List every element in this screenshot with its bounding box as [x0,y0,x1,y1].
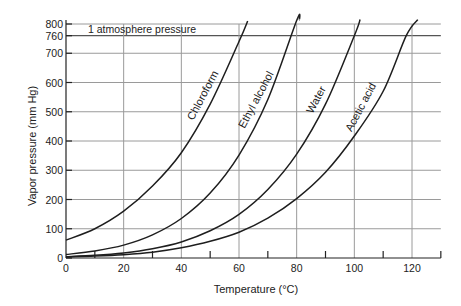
curve-label-water: Water [304,84,328,115]
y-axis-label: Vapor pressure (mm Hg) [26,86,38,206]
chart-canvas: 0100200300400500600700760800020406080100… [0,0,461,306]
y-tick-label: 600 [45,77,63,89]
y-tick-label: 500 [45,106,63,118]
y-tick-label: 100 [45,223,63,235]
x-tick-label: 40 [175,262,187,274]
gridlines [66,24,441,258]
atmosphere-annotation: 1 atmosphere pressure [88,23,196,35]
x-axis-label: Temperature (°C) [214,283,298,295]
curve-label-ethyl-alcohol: Ethyl alcohol [236,69,276,130]
x-tick-label: 80 [291,262,303,274]
curve-label-acetic-acid: Acetic acid [343,81,379,134]
x-tick-label: 60 [233,262,245,274]
axes: 0100200300400500600700760800020406080100… [45,18,440,274]
y-tick-label: 700 [45,47,63,59]
x-tick-label: 100 [346,262,364,274]
y-tick-label: 800 [45,18,63,30]
y-tick-label: 200 [45,194,63,206]
y-tick-label: 300 [45,164,63,176]
x-tick-label: 120 [403,262,421,274]
curve-chloroform [66,21,248,240]
x-tick-label: 20 [118,262,130,274]
curve-labels: ChloroformEthyl alcoholWaterAcetic acid [184,68,378,133]
curve-ethyl-alcohol [66,14,300,254]
y-tick-label: 400 [45,135,63,147]
curves [66,14,418,257]
curve-acetic-acid [66,20,418,257]
vapor-pressure-chart: 0100200300400500600700760800020406080100… [0,0,461,306]
y-tick-label: 760 [45,30,63,42]
x-tick-label: 0 [63,262,69,274]
